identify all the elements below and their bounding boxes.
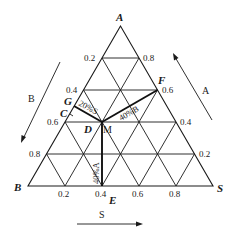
left-tick-0-8: 0.8 (29, 149, 41, 159)
vertex-label-b: B (13, 181, 21, 193)
point-label-d: D (83, 123, 92, 135)
left-tick-0-6: 0.6 (47, 117, 59, 127)
arrow-label-s: S (99, 209, 105, 220)
grid-line (176, 154, 195, 186)
arrow-b-head-icon (21, 135, 26, 143)
left-tick-0-4: 0.4 (66, 85, 78, 95)
arrow-s: S (77, 209, 143, 227)
right-tick-0-4: 0.4 (180, 117, 192, 127)
bottom-tick-0-4: 0.4 (95, 189, 107, 199)
triangle-outline (28, 26, 213, 186)
point-label-f: F (157, 74, 166, 86)
arrow-a: A (173, 53, 212, 120)
vertex-label-s: S (217, 182, 223, 194)
grid-line (47, 154, 66, 186)
arrow-a-head-icon (173, 53, 179, 61)
right-tick-0-6: 0.6 (162, 85, 174, 95)
left-tick-0-2: 0.2 (84, 53, 95, 63)
bottom-tick-0-8: 0.8 (169, 189, 181, 199)
grid-line (102, 90, 158, 186)
ternary-diagram: A B S 0.2 0.4 0.6 0.8 0.8 0.6 0.4 0.2 0.… (0, 0, 236, 238)
point-label-m: M (103, 124, 112, 135)
point-label-c: C (60, 107, 68, 119)
vertex-label-a: A (115, 11, 123, 23)
arrow-b: B (21, 62, 60, 143)
ternary-diagram-svg: A B S 0.2 0.4 0.6 0.8 0.8 0.6 0.4 0.2 0.… (0, 0, 236, 238)
arrow-label-a: A (202, 85, 210, 96)
segment-label-mf: 40%B (117, 103, 141, 122)
point-label-g: G (64, 95, 72, 107)
arrow-s-head-icon (136, 222, 143, 227)
bottom-tick-0-2: 0.2 (58, 189, 69, 199)
right-tick-0-8: 0.8 (143, 53, 155, 63)
arrow-label-b: B (28, 93, 35, 104)
segment-label-me: 40%A (91, 161, 101, 184)
right-tick-0-2: 0.2 (199, 149, 210, 159)
bottom-tick-0-6: 0.6 (132, 189, 144, 199)
point-c-tick (70, 114, 73, 116)
point-label-e: E (108, 194, 116, 206)
